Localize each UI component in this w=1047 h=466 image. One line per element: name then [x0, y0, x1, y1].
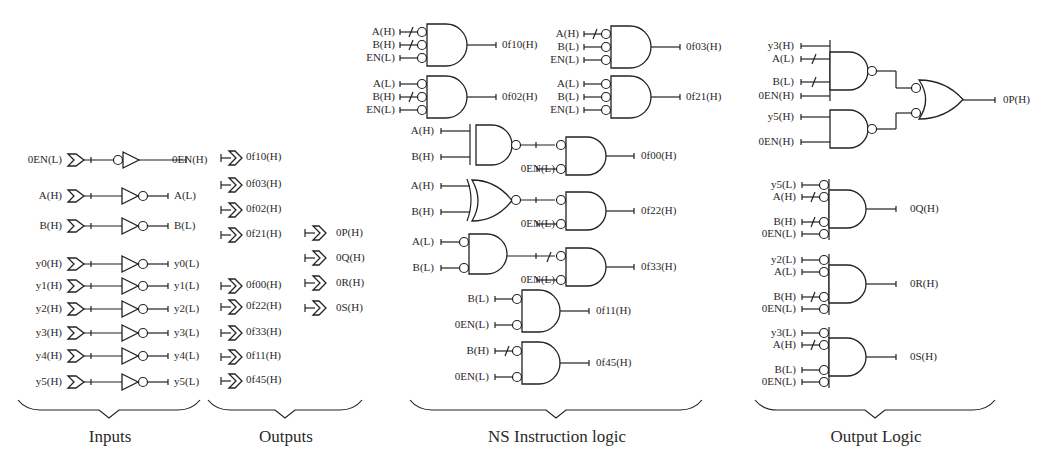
- input-connector-icon: [68, 258, 84, 270]
- input-row: A(H)A(L): [39, 188, 197, 204]
- gate-input-label: B(H): [411, 205, 434, 218]
- inversion-bubble-icon: [557, 141, 566, 150]
- inversion-bubble-icon: [820, 378, 829, 387]
- input-signal-label: B(H): [39, 219, 62, 232]
- section-brace-icon: [208, 400, 362, 418]
- section-label-outlogic: Output Logic: [830, 427, 922, 446]
- gate-output-label: 0f00(H): [641, 149, 677, 162]
- inversion-bubble-icon: [557, 165, 566, 174]
- gate-input-label: B(L): [773, 75, 795, 88]
- gate-input-label: B(L): [558, 90, 580, 103]
- input-connector-icon: [68, 154, 84, 166]
- output-label: 0f02(H): [246, 202, 282, 215]
- gate-input-label: 0EN(H): [759, 135, 795, 148]
- output-logic-section: y3(H)A(L)B(L)0EN(H)y5(H)0EN(H)0P(H)y5(L)…: [759, 39, 1031, 388]
- nand-gate-icon: [830, 110, 868, 148]
- gate-input-label: A(H): [411, 124, 435, 137]
- inversion-bubble-icon: [114, 156, 123, 165]
- gate-input-label: A(H): [372, 25, 396, 38]
- output-signal-label: y5(L): [174, 375, 199, 388]
- gate-input-label: EN(L): [366, 103, 395, 116]
- buffer-gate-icon: [122, 278, 138, 294]
- output-connector: 0f22(H): [221, 299, 282, 314]
- gate-input-label: 0EN(H): [759, 89, 795, 102]
- buffer-gate-icon: [122, 348, 138, 364]
- and-gate-icon: [522, 342, 560, 384]
- output-label: 0f45(H): [246, 373, 282, 386]
- inversion-bubble-icon: [512, 141, 521, 150]
- output-connector: 0f03(H): [221, 177, 282, 192]
- section-braces: InputsOutputsNS Instruction logicOutput …: [18, 400, 995, 446]
- input-connector-icon: [68, 220, 84, 232]
- inversion-bubble-icon: [820, 256, 829, 265]
- gate-input-label: 0EN(L): [521, 162, 556, 175]
- and3-decoder: A(H)B(H)EN(L)0f10(H): [366, 24, 537, 66]
- two-stage-decoder-xnor: A(H)B(H)0EN(L)0f22(H): [411, 179, 677, 230]
- input-signal-label: y2(H): [36, 302, 63, 315]
- inversion-bubble-icon: [820, 181, 829, 190]
- inversion-bubble-icon: [602, 56, 611, 65]
- output-signal-label: y2(L): [174, 302, 199, 315]
- gate-output-label: 0f02(H): [502, 90, 538, 103]
- gate-input-label: B(L): [413, 261, 435, 274]
- output-label: 0Q(H): [336, 251, 365, 264]
- section-label-inputs: Inputs: [89, 427, 132, 446]
- inversion-bubble-icon: [513, 373, 522, 382]
- inversion-bubble-icon: [139, 222, 148, 231]
- and-gate-icon: [566, 137, 606, 175]
- slash-mark: [547, 252, 551, 262]
- inversion-bubble-icon: [820, 329, 829, 338]
- gate-output-label: 0Q(H): [910, 202, 939, 215]
- and4-output-circuit: y3(L)A(H)B(L)0EN(L)0S(H): [762, 326, 937, 388]
- input-connector-icon: [68, 327, 84, 339]
- output-label: 0R(H): [336, 276, 364, 289]
- input-connector-icon: [68, 280, 84, 292]
- inversion-bubble-icon: [557, 276, 566, 285]
- inversion-bubble-icon: [602, 43, 611, 52]
- inversion-bubble-icon: [868, 67, 877, 76]
- gate-input-label: A(L): [373, 77, 395, 90]
- nand-gate-icon: [476, 125, 512, 165]
- inversion-bubble-icon: [820, 341, 829, 350]
- output-signal-label: y1(L): [174, 279, 199, 292]
- and-gate-icon: [829, 265, 866, 303]
- gate-output-label: 0f10(H): [502, 38, 538, 51]
- section-label-outputs: Outputs: [259, 427, 313, 446]
- and4-output-circuit: y5(L)A(H)B(H)0EN(L)0Q(H): [762, 178, 939, 240]
- gate-input-label: B(L): [558, 40, 580, 53]
- inversion-bubble-icon: [139, 378, 148, 387]
- input-signal-label: y3(H): [36, 326, 63, 339]
- and3-decoder: A(H)B(L)EN(L)0f03(H): [550, 26, 721, 68]
- output-signal-label: A(L): [174, 189, 196, 202]
- buffer-gate-icon: [123, 152, 139, 168]
- section-label-ns: NS Instruction logic: [488, 427, 626, 446]
- gate-input-label: A(H): [411, 179, 435, 192]
- gate-input-label: EN(L): [550, 103, 579, 116]
- and-gate-icon: [611, 26, 651, 68]
- output-connector: 0f45(H): [221, 373, 282, 388]
- buffer-gate-icon: [122, 325, 138, 341]
- inversion-bubble-icon: [820, 293, 829, 302]
- gate-output-label: 0f22(H): [641, 204, 677, 217]
- two-stage-decoder-and_bub: A(L)B(L)0EN(L)0f33(H): [412, 234, 677, 286]
- input-row: y5(H)y5(L): [36, 374, 200, 390]
- gate-output-label: 0R(H): [910, 277, 938, 290]
- gate-output-label: 0f33(H): [641, 260, 677, 273]
- and-gate-icon: [427, 76, 467, 118]
- gate-input-label: A(H): [556, 27, 580, 40]
- output-connector: 0f10(H): [221, 150, 282, 165]
- inversion-bubble-icon: [912, 84, 921, 93]
- inversion-bubble-icon: [602, 93, 611, 102]
- buffer-gate-icon: [122, 256, 138, 272]
- buffer-gate-icon: [122, 374, 138, 390]
- input-connector-icon: [68, 303, 84, 315]
- output-label: 0f00(H): [246, 278, 282, 291]
- gate-input-label: B(H): [411, 150, 434, 163]
- output-label: 0P(H): [336, 226, 363, 239]
- two-stage-decoder-nand: A(H)B(H)0EN(L)0f00(H): [411, 124, 677, 175]
- inversion-bubble-icon: [139, 352, 148, 361]
- and-gate-icon: [829, 338, 866, 376]
- inversion-bubble-icon: [418, 54, 427, 63]
- and2-decoder: B(H)0EN(L)0f45(H): [455, 342, 632, 384]
- inversion-bubble-icon: [139, 192, 148, 201]
